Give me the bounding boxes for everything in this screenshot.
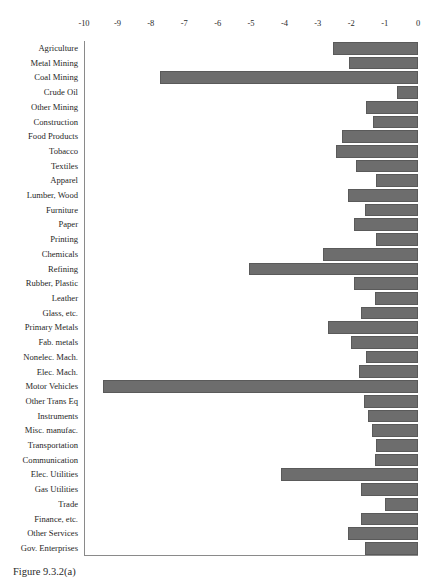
plot-area	[84, 41, 418, 556]
y-axis-label: Primary Metals	[0, 320, 82, 335]
y-axis-label: Gov. Enterprises	[0, 541, 82, 556]
y-axis-label: Nonelec. Mach.	[0, 350, 82, 365]
y-axis-label: Textiles	[0, 159, 82, 174]
x-tick-label: -1	[381, 18, 388, 28]
x-tick-label: -5	[248, 18, 255, 28]
bar-row	[85, 438, 418, 453]
bar-row	[85, 144, 418, 159]
bar	[366, 101, 418, 114]
y-axis-label: Glass, etc.	[0, 306, 82, 321]
bar	[328, 321, 418, 334]
y-axis-label: Agriculture	[0, 41, 82, 56]
y-axis-label: Metal Mining	[0, 56, 82, 71]
y-axis-label: Other Trans Eq	[0, 394, 82, 409]
y-axis-label: Elec. Mach.	[0, 364, 82, 379]
bar	[373, 116, 418, 129]
bar-row	[85, 262, 418, 277]
bar-row	[85, 379, 418, 394]
figure-container: -10-9-8-7-6-5-4-3-2-10 AgricultureMetal …	[0, 0, 436, 579]
y-axis-label: Rubber, Plastic	[0, 276, 82, 291]
y-axis-label: Printing	[0, 232, 82, 247]
y-axis-label: Coal Mining	[0, 70, 82, 85]
bar-row	[85, 276, 418, 291]
bar	[364, 395, 418, 408]
bar	[376, 439, 418, 452]
bar	[354, 277, 418, 290]
y-axis-label: Elec. Utilities	[0, 467, 82, 482]
bar-row	[85, 85, 418, 100]
bar-row	[85, 115, 418, 130]
bar	[361, 513, 418, 526]
bar	[348, 189, 418, 202]
figure-caption: Figure 9.3.2(a)	[13, 566, 76, 577]
bar	[376, 174, 418, 187]
y-axis-label: Gas Utilities	[0, 482, 82, 497]
y-axis-label: Fab. metals	[0, 335, 82, 350]
y-axis-label: Other Mining	[0, 100, 82, 115]
y-axis-label: Refining	[0, 262, 82, 277]
y-axis-label: Apparel	[0, 173, 82, 188]
bar	[359, 365, 418, 378]
y-axis-label: Chemicals	[0, 247, 82, 262]
y-axis-label: Transportation	[0, 438, 82, 453]
y-axis-label: Lumber, Wood	[0, 188, 82, 203]
bar-row	[85, 364, 418, 379]
bar-row	[85, 247, 418, 262]
bar	[356, 160, 418, 173]
bar	[361, 307, 418, 320]
bar-row	[85, 100, 418, 115]
bar	[376, 233, 418, 246]
bar-row	[85, 70, 418, 85]
y-axis-label: Communication	[0, 453, 82, 468]
y-axis-label: Paper	[0, 217, 82, 232]
bar	[351, 336, 418, 349]
bar-row	[85, 217, 418, 232]
bar	[366, 351, 418, 364]
bar	[354, 218, 418, 231]
y-axis-label: Food Products	[0, 129, 82, 144]
bar-row	[85, 306, 418, 321]
bar-row	[85, 320, 418, 335]
bar	[385, 498, 418, 511]
bar	[323, 248, 418, 261]
bar-row	[85, 291, 418, 306]
bar	[249, 263, 418, 276]
bar	[365, 204, 418, 217]
bar-rows	[85, 41, 418, 555]
bar-row	[85, 482, 418, 497]
bar-row	[85, 173, 418, 188]
bar	[375, 292, 418, 305]
bar-row	[85, 512, 418, 527]
bar	[333, 42, 418, 55]
bar	[103, 380, 418, 393]
x-tick-label: -4	[281, 18, 288, 28]
bar-row	[85, 526, 418, 541]
bar-row	[85, 335, 418, 350]
bar-row	[85, 41, 418, 56]
bar-row	[85, 188, 418, 203]
bar-row	[85, 394, 418, 409]
bar-row	[85, 232, 418, 247]
x-tick-label: -9	[114, 18, 121, 28]
x-tick-label: 0	[416, 18, 420, 28]
bar-row	[85, 453, 418, 468]
y-axis-label: Leather	[0, 291, 82, 306]
y-axis-label: Trade	[0, 497, 82, 512]
bar	[160, 71, 418, 84]
bar	[365, 542, 418, 555]
y-axis-label: Crude Oil	[0, 85, 82, 100]
y-axis-label: Furniture	[0, 203, 82, 218]
bar-row	[85, 159, 418, 174]
bar-row	[85, 203, 418, 218]
x-tick-label: -7	[181, 18, 188, 28]
bar	[397, 86, 418, 99]
y-axis-label: Finance, etc.	[0, 512, 82, 527]
bar	[375, 454, 418, 467]
y-axis-label: Tobacco	[0, 144, 82, 159]
bar	[361, 483, 418, 496]
x-axis-tick-labels: -10-9-8-7-6-5-4-3-2-10	[84, 18, 418, 38]
y-axis-label: Other Services	[0, 526, 82, 541]
y-axis-label: Instruments	[0, 409, 82, 424]
bar	[349, 57, 418, 70]
bar-row	[85, 423, 418, 438]
